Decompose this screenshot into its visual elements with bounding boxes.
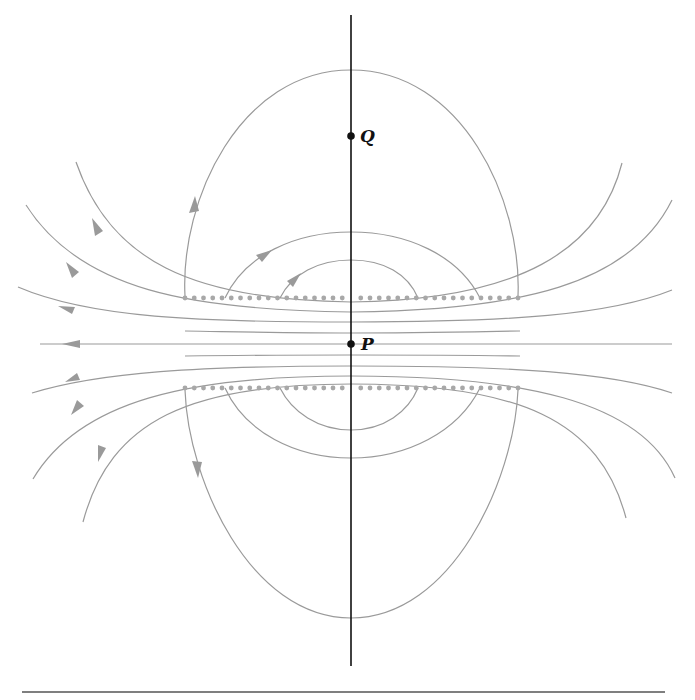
arrow-left-icon [62,340,80,348]
point-p-label: P [360,334,375,354]
field-line-open-upper-4 [185,331,520,333]
point-q-marker [347,132,355,140]
arrow-icons [58,196,301,478]
field-line-open-upper-3 [18,287,672,322]
arrow-up-right-icon [256,250,272,262]
field-line-medium-loop-bottom [225,388,480,458]
arrow-down-left-icon [71,400,84,415]
arrow-down-left-icon [98,445,106,462]
point-p-marker [347,340,355,348]
field-line-open-lower-2 [33,376,675,479]
field-line-open-lower-3 [32,366,672,393]
point-q-label: Q [360,126,375,146]
arrow-up-left-icon [66,262,79,278]
field-line-open-upper-2 [26,200,672,312]
field-line-open-lower-1 [83,384,626,522]
field-line-diagram: Q P [0,0,695,700]
arrow-left-icon [65,373,80,382]
arrow-left-icon [58,306,75,314]
arrow-down-icon [192,461,202,478]
field-line-small-loop-top [280,260,418,298]
field-line-small-loop-bottom [280,388,418,430]
field-line-open-lower-4 [185,355,520,356]
arrow-up-left-icon [92,218,103,236]
field-line-medium-loop-top [225,232,480,298]
